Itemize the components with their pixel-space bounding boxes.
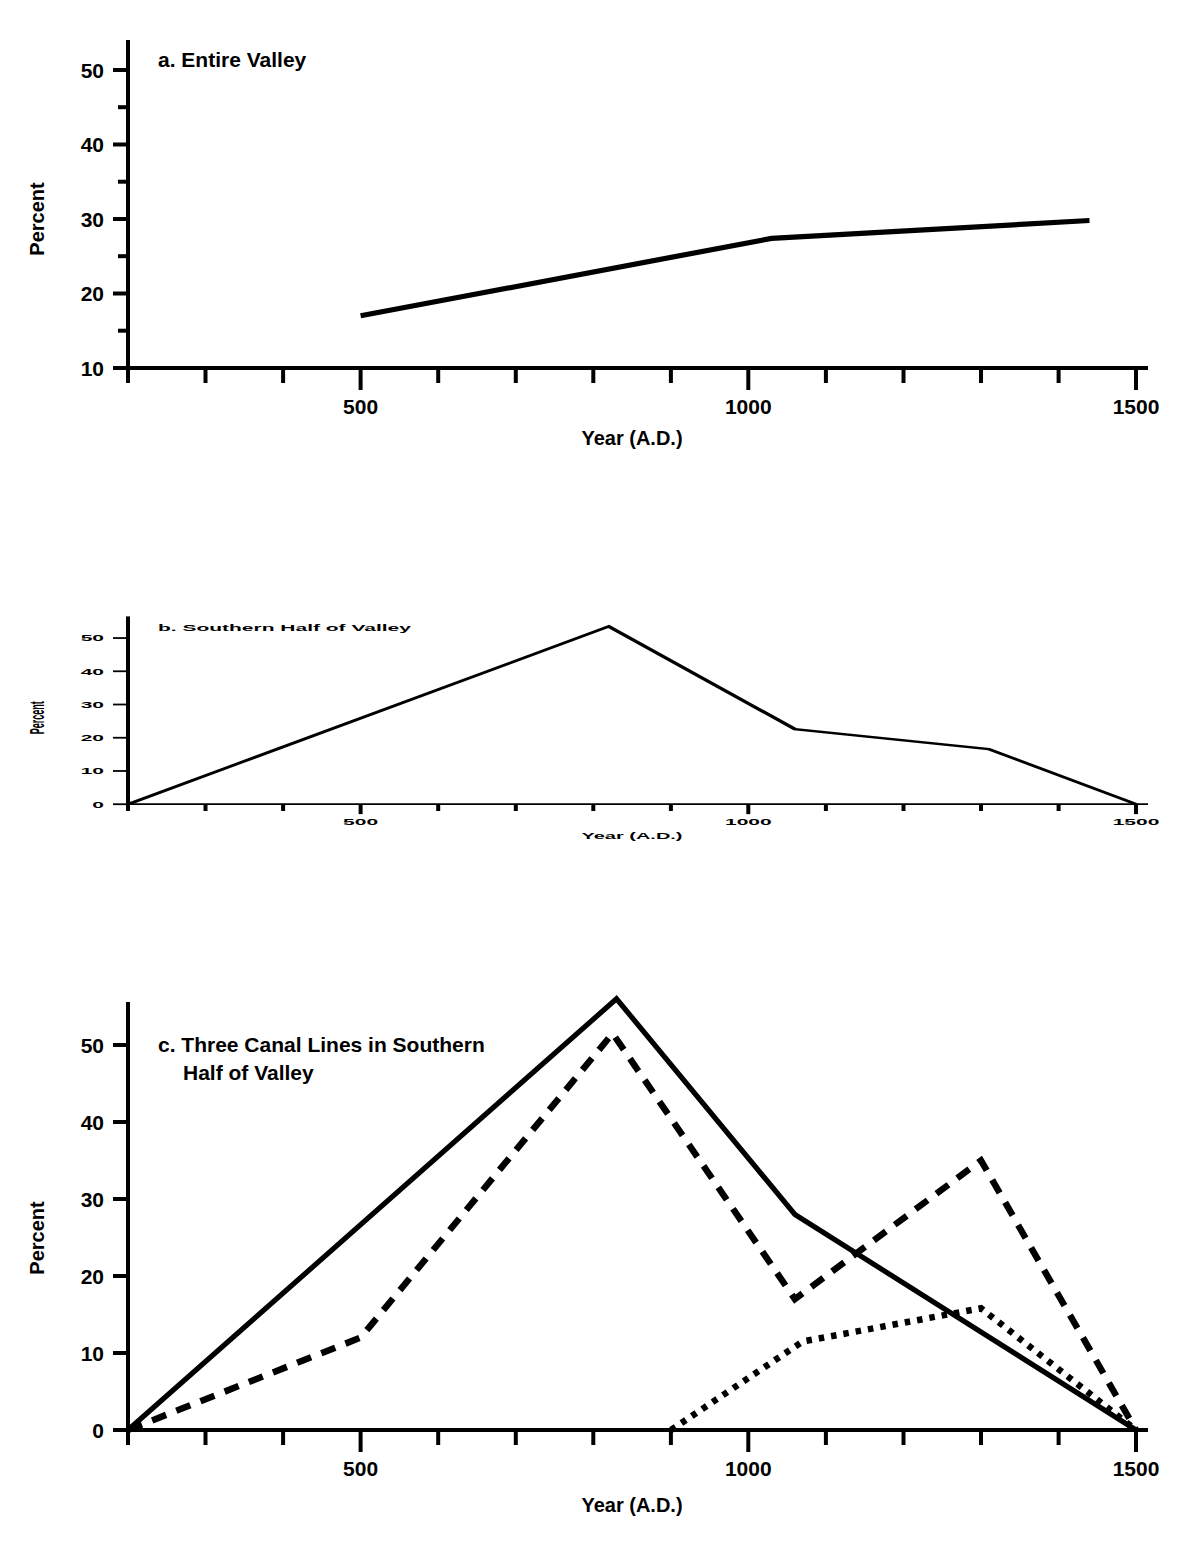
panel-b-ytick-20: 20 xyxy=(81,732,104,742)
panel-c-title-line2: Half of Valley xyxy=(183,1061,314,1084)
panel-a-title: a. Entire Valley xyxy=(158,48,307,71)
panel-b-y-major-ticks xyxy=(113,638,128,804)
panel-c-y-major-ticks xyxy=(113,1045,128,1430)
panel-c-xtick-1500: 1500 xyxy=(1113,1457,1160,1480)
panel-a-entire-valley: 10 20 30 40 50 xyxy=(0,0,1199,450)
panel-a-svg: 10 20 30 40 50 xyxy=(0,0,1199,450)
panel-b-x-axis-title: Year (A.D.) xyxy=(581,831,682,841)
panel-a-y-axis-title: Percent xyxy=(26,182,48,256)
panel-c-y-axis-title: Percent xyxy=(26,1201,48,1275)
panel-c-three-canal-lines: 0 10 20 30 40 50 xyxy=(0,990,1199,1562)
panel-b-x-major-ticks xyxy=(361,804,1136,814)
panel-b-xtick-1000: 1000 xyxy=(725,816,772,826)
panel-b-ytick-50: 50 xyxy=(81,633,104,643)
panel-c-ytick-50: 50 xyxy=(81,1034,104,1057)
panel-b-ytick-0: 0 xyxy=(92,799,104,809)
panel-a-x-major-ticks xyxy=(361,368,1136,390)
panel-c-x-minor-ticks xyxy=(128,1430,1059,1445)
panel-a-ytick-40: 40 xyxy=(81,133,104,156)
panel-c-svg: 0 10 20 30 40 50 xyxy=(0,990,1199,1562)
panel-b-xtick-500: 500 xyxy=(343,816,378,826)
panel-b-ytick-30: 30 xyxy=(81,699,104,709)
panel-c-ytick-30: 30 xyxy=(81,1188,104,1211)
panel-c-ytick-20: 20 xyxy=(81,1265,104,1288)
panel-b-ytick-40: 40 xyxy=(81,666,104,676)
panel-c-xtick-1000: 1000 xyxy=(725,1457,772,1480)
panel-b-x-minor-ticks xyxy=(128,804,1059,811)
panel-c-ytick-40: 40 xyxy=(81,1111,104,1134)
panel-c-title-line1: c. Three Canal Lines in Southern xyxy=(158,1033,485,1056)
panel-b-southern-half: 0 10 20 30 40 50 xyxy=(0,450,1199,990)
panel-a-xtick-1500: 1500 xyxy=(1113,395,1160,418)
panel-b-y-axis-title: Percent xyxy=(26,701,48,734)
panel-b-series-southern-half xyxy=(128,626,1136,804)
panel-a-ytick-10: 10 xyxy=(81,357,104,380)
panel-c-series-canal-line-3 xyxy=(671,1308,1136,1430)
panel-c-xtick-500: 500 xyxy=(343,1457,378,1480)
panel-b-svg-wrapper: 0 10 20 30 40 50 xyxy=(0,450,1199,990)
panel-c-x-axis-title: Year (A.D.) xyxy=(581,1494,682,1516)
panel-b-title: b. Southern Half of Valley xyxy=(158,622,411,632)
panel-a-ytick-50: 50 xyxy=(81,59,104,82)
panel-c-x-major-ticks xyxy=(361,1430,1136,1452)
panel-a-ytick-20: 20 xyxy=(81,282,104,305)
panel-a-y-major-ticks xyxy=(113,70,128,368)
panel-b-xtick-1500: 1500 xyxy=(1113,816,1160,826)
figure-three-panel-line-charts: 10 20 30 40 50 xyxy=(0,0,1199,1562)
panel-a-series-entire-valley xyxy=(361,221,1090,316)
panel-a-x-axis-title: Year (A.D.) xyxy=(581,427,682,449)
panel-b-svg: 0 10 20 30 40 50 xyxy=(26,616,1159,840)
panel-a-xtick-1000: 1000 xyxy=(725,395,772,418)
panel-a-x-minor-ticks xyxy=(128,368,1059,383)
panel-c-ytick-10: 10 xyxy=(81,1342,104,1365)
panel-a-ytick-30: 30 xyxy=(81,208,104,231)
panel-a-xtick-500: 500 xyxy=(343,395,378,418)
panel-c-ytick-0: 0 xyxy=(92,1419,104,1442)
panel-c-series-canal-line-2 xyxy=(128,1033,1136,1430)
panel-b-ytick-10: 10 xyxy=(81,766,104,776)
